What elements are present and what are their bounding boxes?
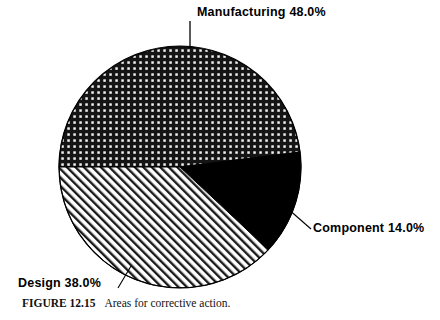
pie-slice-manufacturing bbox=[59, 47, 300, 167]
figure-caption-text: Areas for corrective action. bbox=[104, 297, 230, 309]
figure-container: Manufacturing 48.0% Component 14.0% Desi… bbox=[0, 0, 440, 320]
leader-line-component bbox=[287, 208, 311, 229]
pie-label-component: Component 14.0% bbox=[313, 222, 424, 236]
pie-chart-svg bbox=[0, 0, 440, 320]
figure-caption-number: FIGURE 12.15 bbox=[22, 297, 95, 309]
pie-label-manufacturing: Manufacturing 48.0% bbox=[197, 6, 326, 20]
figure-caption: FIGURE 12.15Areas for corrective action. bbox=[22, 297, 230, 311]
pie-label-design: Design 38.0% bbox=[18, 277, 101, 291]
